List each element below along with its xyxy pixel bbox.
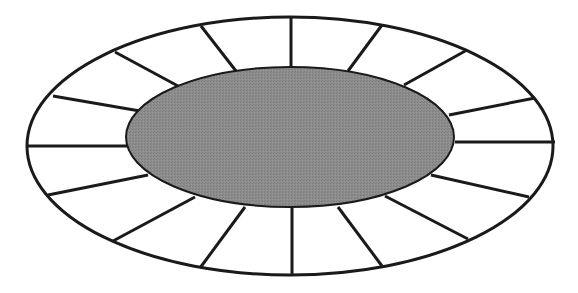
table-top: [126, 67, 454, 207]
seating-chart-graphic: [0, 0, 578, 293]
seating-diagram: Oval table seating arrangement: [0, 0, 578, 293]
